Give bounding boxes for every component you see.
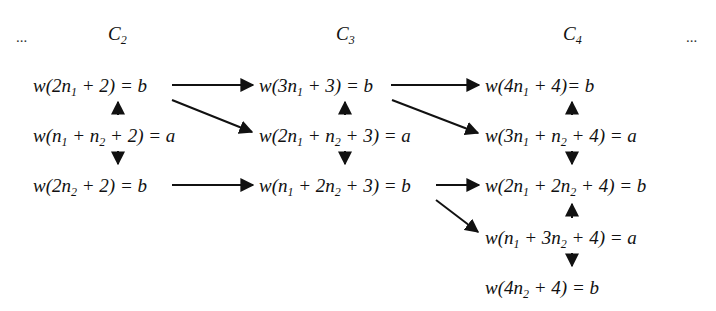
arrow-c3-0-to-c4-1 — [392, 100, 478, 133]
arrow-c2-0-to-c3-1 — [172, 100, 252, 132]
arrow-layer — [0, 0, 716, 311]
arrow-c3-2-to-c4-3 — [436, 200, 478, 232]
